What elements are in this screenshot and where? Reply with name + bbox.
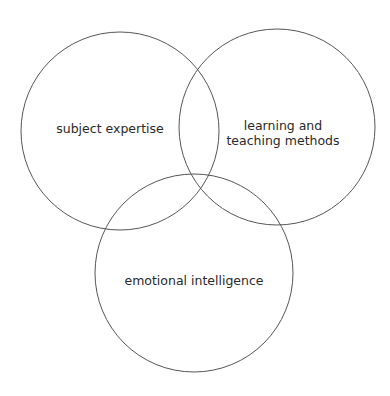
label-subject-expertise: subject expertise xyxy=(56,121,164,136)
label-line-1: learning and xyxy=(226,118,339,133)
label-learning-teaching-methods: learning and teaching methods xyxy=(226,118,339,148)
venn-diagram xyxy=(0,0,390,396)
label-emotional-intelligence: emotional intelligence xyxy=(124,273,263,288)
label-line-2: teaching methods xyxy=(226,133,339,148)
